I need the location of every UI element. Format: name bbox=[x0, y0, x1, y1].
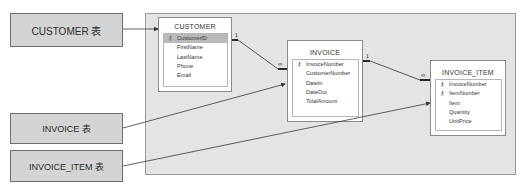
arrow-invoice-label bbox=[123, 84, 285, 128]
svg-text:1: 1 bbox=[366, 53, 369, 59]
connector-lines: 1 ∞ 1 ∞ bbox=[0, 0, 528, 188]
relationship-invoice-invoiceitem: 1 ∞ bbox=[363, 53, 430, 80]
svg-text:∞: ∞ bbox=[278, 61, 282, 67]
svg-text:1: 1 bbox=[235, 32, 238, 38]
arrow-invoice-item-label bbox=[123, 103, 430, 166]
relationship-customer-invoice: 1 ∞ bbox=[232, 32, 287, 69]
svg-text:∞: ∞ bbox=[421, 72, 425, 78]
